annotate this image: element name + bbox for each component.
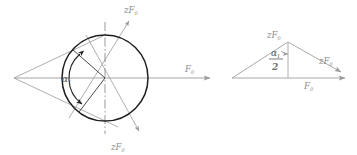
half-angle-denominator: 2	[271, 62, 278, 72]
label-half-angle-fraction: α1 2	[269, 48, 283, 72]
diagonal-axis-lower-arrow	[86, 35, 139, 131]
label-axis-bottom: zF0	[110, 142, 125, 153]
label-axis-horizontal: F0	[184, 64, 195, 75]
right-diagram-group: zF0 zF0 F0 α1 2	[232, 30, 345, 92]
triangle-hypotenuse-arrow	[288, 42, 341, 72]
label-top-vertex: zF0	[266, 30, 281, 41]
label-hypotenuse: zF0	[318, 56, 333, 67]
figure-canvas: zF0 zF0 F0 α1	[0, 0, 357, 155]
label-angle-alpha1: α1	[62, 74, 71, 85]
triangle-left-side	[232, 42, 288, 78]
half-angle-numerator: α1	[271, 48, 280, 59]
label-base-arrow: F0	[303, 81, 314, 92]
radius-upper-tangent	[72, 49, 105, 78]
label-axis-top: zF0	[123, 5, 138, 16]
lower-tangent-line	[14, 78, 118, 127]
half-angle-arc-arrow	[281, 51, 288, 54]
left-diagram-group: zF0 zF0 F0 α1	[14, 5, 210, 153]
technical-figure: zF0 zF0 F0 α1	[0, 0, 357, 155]
